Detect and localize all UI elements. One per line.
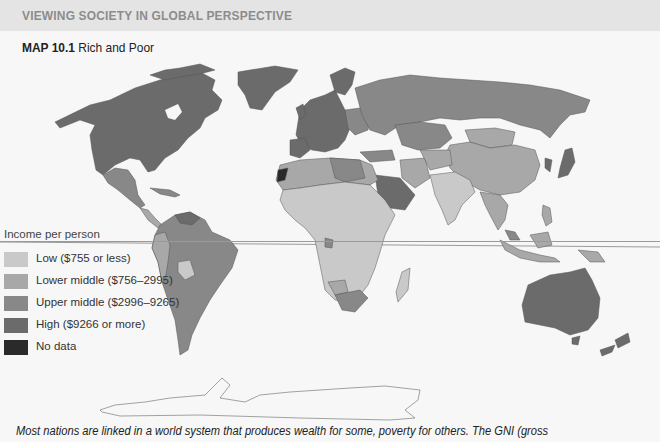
region-malaysia xyxy=(505,230,520,240)
region-antarctica xyxy=(100,378,420,420)
map-caption: Most nations are linked in a world syste… xyxy=(16,424,548,438)
swatch-upper-middle xyxy=(4,296,28,311)
region-australia xyxy=(522,268,600,335)
legend-divider xyxy=(0,241,660,242)
region-india xyxy=(430,172,475,225)
swatch-no-data xyxy=(4,340,28,355)
region-tasmania xyxy=(572,336,580,345)
map-title: MAP 10.1 Rich and Poor xyxy=(22,40,154,55)
region-north-america xyxy=(55,72,222,175)
region-new-zealand xyxy=(600,333,630,356)
region-southeast-asia xyxy=(480,192,508,230)
region-gabon xyxy=(325,238,333,248)
section-header-band: VIEWING SOCIETY IN GLOBAL PERSPECTIVE xyxy=(0,0,660,31)
region-mexico xyxy=(103,168,145,208)
swatch-lower-middle xyxy=(4,274,28,289)
region-madagascar xyxy=(396,268,410,302)
legend-label-lower-middle: Lower middle ($756–2995) xyxy=(36,274,173,286)
swatch-low xyxy=(4,252,28,267)
region-turkey xyxy=(360,150,395,162)
region-central-asia xyxy=(395,122,452,150)
world-income-map xyxy=(0,55,660,425)
legend-label-upper-middle: Upper middle ($2996–9265) xyxy=(36,296,179,308)
region-japan xyxy=(558,148,575,178)
legend-label-no-data: No data xyxy=(36,340,76,352)
region-korea xyxy=(545,158,552,172)
map-number: MAP 10.1 xyxy=(22,40,75,55)
legend-title: Income per person xyxy=(4,228,100,240)
swatch-high xyxy=(4,318,28,333)
region-central-america xyxy=(140,208,162,228)
region-greenland xyxy=(238,66,298,110)
region-papua xyxy=(578,250,605,262)
region-caribbean xyxy=(150,188,180,197)
region-russia xyxy=(355,75,590,138)
section-title: VIEWING SOCIETY IN GLOBAL PERSPECTIVE xyxy=(22,8,292,23)
map-title-text: Rich and Poor xyxy=(78,40,154,55)
region-philippines xyxy=(542,205,552,226)
legend-label-low: Low ($755 or less) xyxy=(36,252,131,264)
legend-label-high: High ($9266 or more) xyxy=(36,318,145,330)
